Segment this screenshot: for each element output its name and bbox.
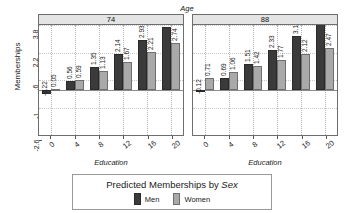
bar-men-edu-12 bbox=[114, 54, 123, 91]
panel-74: 74-0.220.050.560.591.351.132.141.672.932… bbox=[38, 14, 184, 136]
legend-key-men: Men bbox=[134, 193, 160, 205]
bar-value-label: 1.35 bbox=[91, 52, 98, 65]
bar-men-edu-20 bbox=[162, 27, 171, 91]
x-axis: 048121620 bbox=[38, 136, 184, 158]
x-axis-tick-mark bbox=[326, 136, 327, 139]
legend-title-italic: Sex bbox=[221, 179, 237, 190]
bar-value-label: 0.56 bbox=[67, 66, 74, 79]
bar-value-label: 0.69 bbox=[221, 64, 228, 77]
legend-label: Women bbox=[184, 195, 210, 204]
panel-row: 74-0.220.050.560.591.351.132.141.672.932… bbox=[38, 14, 338, 136]
legend-label: Men bbox=[145, 195, 160, 204]
bar-men-edu-4 bbox=[220, 78, 229, 90]
panel-strip-label: 74 bbox=[38, 14, 184, 25]
bar-value-label: 2.21 bbox=[148, 38, 155, 51]
zero-baseline bbox=[39, 90, 183, 91]
conditioning-variable-label: Age bbox=[36, 4, 338, 13]
bar-women-edu-16 bbox=[147, 52, 156, 90]
bar-value-label: 3.15 bbox=[293, 25, 300, 34]
bar-value-label: 1.42 bbox=[254, 51, 261, 64]
bar-women-edu-12 bbox=[277, 60, 286, 90]
x-axis-tick-label: 12 bbox=[121, 138, 133, 150]
plot-area: -0.220.050.560.591.351.132.141.672.932.2… bbox=[38, 25, 184, 136]
bar-value-label: -0.22 bbox=[42, 81, 49, 96]
gridline-horizontal bbox=[193, 108, 337, 109]
bar-men-edu-16 bbox=[292, 36, 301, 90]
bar-women-edu-4 bbox=[229, 72, 238, 90]
bar-value-label: 0.05 bbox=[51, 75, 58, 88]
x-axis-tick-mark bbox=[123, 136, 124, 139]
legend: Predicted Memberships by Sex MenWomen bbox=[72, 174, 272, 210]
x-axis-tick-mark bbox=[172, 136, 173, 139]
bar-women-edu-20 bbox=[171, 43, 180, 90]
x-axis-title: Education bbox=[38, 158, 184, 167]
x-axis-tick-label: 8 bbox=[250, 140, 259, 150]
trellis-bar-chart: Age Memberships -2.6-1.62.23.8 74-0.220.… bbox=[0, 0, 344, 213]
bar-value-label: 1.51 bbox=[245, 50, 252, 63]
bar-women-edu-12 bbox=[123, 62, 132, 91]
bar-men-edu-4 bbox=[66, 81, 75, 91]
bar-women-edu-0 bbox=[51, 89, 60, 91]
x-axis-tick-label: 16 bbox=[299, 138, 311, 150]
gridline-horizontal bbox=[39, 108, 183, 109]
x-axis-tick-label: 16 bbox=[145, 138, 157, 150]
legend-swatch-men bbox=[134, 193, 141, 205]
zero-baseline bbox=[193, 90, 337, 91]
bar-value-label: 2.93 bbox=[139, 25, 146, 38]
bar-value-label: 2.14 bbox=[115, 39, 122, 52]
x-axis-tick-label: 8 bbox=[96, 140, 105, 150]
x-axis-tick-label: 4 bbox=[226, 140, 235, 150]
bar-women-edu-4 bbox=[75, 80, 84, 90]
bar-women-edu-8 bbox=[99, 71, 108, 90]
bar-women-edu-0 bbox=[205, 78, 214, 90]
bar-men-edu-20 bbox=[316, 25, 325, 90]
bar-men-edu-8 bbox=[90, 67, 99, 90]
bar-value-label: 0.59 bbox=[76, 66, 83, 79]
bar-value-label: 2.74 bbox=[172, 29, 179, 42]
bar-value-label: 1.13 bbox=[100, 56, 107, 69]
x-axis-tick-mark bbox=[148, 136, 149, 139]
plot-area: -0.120.710.691.061.511.422.331.773.152.1… bbox=[192, 25, 338, 136]
panel-88: 88-0.120.710.691.061.511.422.331.773.152… bbox=[192, 14, 338, 136]
bar-value-label: 2.12 bbox=[302, 39, 309, 52]
legend-keys: MenWomen bbox=[134, 193, 210, 205]
x-axis-tick-label: 20 bbox=[324, 138, 336, 150]
bar-value-label: 0.71 bbox=[205, 63, 212, 76]
x-axis: 048121620 bbox=[192, 136, 338, 158]
x-axis-tick-mark bbox=[302, 136, 303, 139]
bar-value-label: 1.67 bbox=[124, 47, 131, 60]
y-axis-tick-labels: -2.6-1.62.23.8 bbox=[16, 30, 38, 135]
legend-swatch-women bbox=[173, 193, 180, 205]
bar-men-edu-12 bbox=[268, 50, 277, 90]
x-axis-tick-mark bbox=[277, 136, 278, 139]
bar-women-edu-16 bbox=[301, 54, 310, 90]
panel-strip-label: 88 bbox=[192, 14, 338, 25]
bar-men-edu-8 bbox=[244, 64, 253, 90]
x-axis-tick-label: 12 bbox=[275, 138, 287, 150]
bar-women-edu-8 bbox=[253, 66, 262, 90]
legend-title-plain: Predicted Memberships by bbox=[106, 179, 221, 190]
legend-title: Predicted Memberships by Sex bbox=[106, 179, 237, 190]
bar-men-edu-16 bbox=[138, 40, 147, 90]
bar-value-label: 1.77 bbox=[278, 45, 285, 58]
x-axis-title: Education bbox=[192, 158, 338, 167]
bar-value-label: 1.06 bbox=[230, 57, 237, 70]
x-axis-tick-label: 0 bbox=[48, 140, 57, 150]
x-axis-tick-label: 20 bbox=[170, 138, 182, 150]
legend-key-women: Women bbox=[173, 193, 210, 205]
bar-value-label: -0.12 bbox=[196, 80, 203, 95]
bar-women-edu-20 bbox=[325, 48, 334, 90]
x-axis-tick-label: 0 bbox=[202, 140, 211, 150]
bar-value-label: 2.47 bbox=[326, 33, 333, 46]
bar-value-label: 2.33 bbox=[269, 36, 276, 49]
x-axis-tick-label: 4 bbox=[72, 140, 81, 150]
